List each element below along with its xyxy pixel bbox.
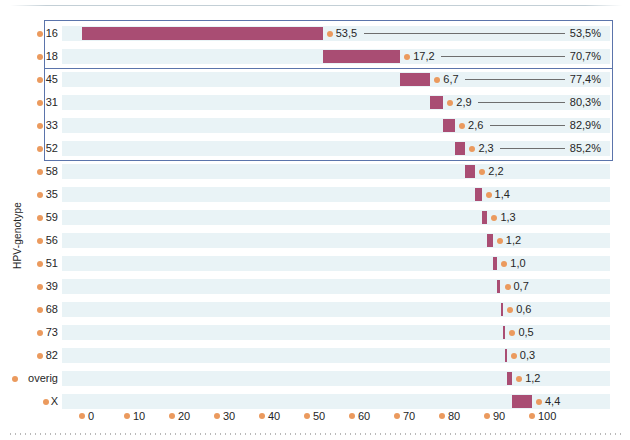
value-bar (503, 326, 505, 339)
x-tick-label: 30 (223, 409, 235, 423)
value-bullet-icon (536, 399, 542, 405)
category-bullet-icon (37, 238, 43, 244)
x-tick-bullet-icon (394, 413, 400, 419)
chart-row: 730,5 (0, 321, 630, 344)
category-bullet-icon (37, 330, 43, 336)
value-label: 1,4 (495, 187, 510, 202)
x-tick-label: 100 (538, 409, 556, 423)
row-stripe (62, 233, 610, 248)
value-label: 1,0 (510, 256, 525, 271)
category-bullet-icon (37, 284, 43, 290)
chart-row: 511,0 (0, 252, 630, 275)
value-bullet-icon (479, 169, 485, 175)
category-bullet-icon (37, 54, 43, 60)
chart-row: 680,6 (0, 298, 630, 321)
category-bullet-icon (37, 353, 43, 359)
chart-row: 820,3 (0, 344, 630, 367)
category-bullet-icon (37, 77, 43, 83)
category-bullet-icon (37, 100, 43, 106)
x-tick-bullet-icon (349, 413, 355, 419)
x-tick-label: 60 (358, 409, 370, 423)
value-label: 0,6 (516, 302, 531, 317)
x-tick-bullet-icon (439, 413, 445, 419)
x-tick-label: 0 (88, 409, 94, 423)
chart-row: 390,7 (0, 275, 630, 298)
value-bullet-icon (516, 376, 522, 382)
value-bar (475, 188, 481, 201)
value-bar (482, 211, 488, 224)
value-bar (507, 372, 512, 385)
category-label: 58 (46, 164, 58, 179)
value-label: 4,4 (545, 394, 560, 409)
x-tick-label: 40 (268, 409, 280, 423)
x-axis: 0102030405060708090100 (0, 408, 630, 426)
x-tick-label: 80 (448, 409, 460, 423)
category-label: 39 (46, 279, 58, 294)
value-label: 0,5 (518, 325, 533, 340)
category-label: overig (28, 371, 58, 386)
x-tick-bullet-icon (124, 413, 130, 419)
x-tick-bullet-icon (304, 413, 310, 419)
category-bullet-icon (37, 146, 43, 152)
value-bullet-icon (497, 238, 503, 244)
value-bullet-icon (501, 261, 507, 267)
value-label: 0,3 (520, 348, 535, 363)
value-bullet-icon (486, 192, 492, 198)
value-label: 1,2 (506, 233, 521, 248)
value-bar (493, 257, 498, 270)
category-bullet-icon (37, 31, 43, 37)
value-bullet-icon (505, 284, 511, 290)
category-bullet-icon (37, 307, 43, 313)
x-tick-bullet-icon (529, 413, 535, 419)
x-tick-label: 50 (313, 409, 325, 423)
value-bullet-icon (507, 307, 513, 313)
value-label: 0,7 (514, 279, 529, 294)
chart-row: 351,4 (0, 183, 630, 206)
category-label: 73 (46, 325, 58, 340)
category-bullet-icon (37, 169, 43, 175)
x-tick-label: 70 (403, 409, 415, 423)
bottom-dotted-rule (8, 433, 622, 435)
category-bullet-icon (37, 123, 43, 129)
category-label: 82 (46, 348, 58, 363)
hpv-genotype-bar-chart: 1653,553,5%1817,270,7%456,777,4%312,980,… (0, 0, 630, 440)
value-bar (465, 165, 475, 178)
x-tick-bullet-icon (79, 413, 85, 419)
category-label: 35 (46, 187, 58, 202)
value-bar (512, 395, 532, 408)
row-stripe (62, 187, 610, 202)
category-label: 56 (46, 233, 58, 248)
value-bar (501, 303, 504, 316)
row-stripe (62, 164, 610, 179)
value-bullet-icon (491, 215, 497, 221)
value-label: 1,3 (500, 210, 515, 225)
chart-row: 591,3 (0, 206, 630, 229)
row-stripe (62, 210, 610, 225)
category-label: 68 (46, 302, 58, 317)
category-label: X (51, 394, 58, 409)
chart-row: 582,2 (0, 160, 630, 183)
chart-row: overig1,2 (0, 367, 630, 390)
value-bullet-icon (509, 330, 515, 336)
category-label: 51 (46, 256, 58, 271)
plot-area: 1653,553,5%1817,270,7%456,777,4%312,980,… (0, 0, 630, 440)
x-tick-bullet-icon (484, 413, 490, 419)
x-tick-label: 90 (493, 409, 505, 423)
y-axis-title: HPV-genotype (12, 191, 23, 281)
value-label: 2,2 (488, 164, 503, 179)
category-bullet-icon (43, 399, 49, 405)
value-label: 1,2 (525, 371, 540, 386)
chart-row: 561,2 (0, 229, 630, 252)
x-tick-bullet-icon (259, 413, 265, 419)
x-tick-label: 10 (133, 409, 145, 423)
category-label: 59 (46, 210, 58, 225)
x-tick-label: 20 (178, 409, 190, 423)
value-bar (497, 280, 500, 293)
value-bullet-icon (511, 353, 517, 359)
x-tick-bullet-icon (169, 413, 175, 419)
x-tick-bullet-icon (214, 413, 220, 419)
value-bar (487, 234, 492, 247)
category-bullet-icon (37, 215, 43, 221)
category-bullet-icon (12, 376, 18, 382)
row-stripe (62, 256, 610, 271)
